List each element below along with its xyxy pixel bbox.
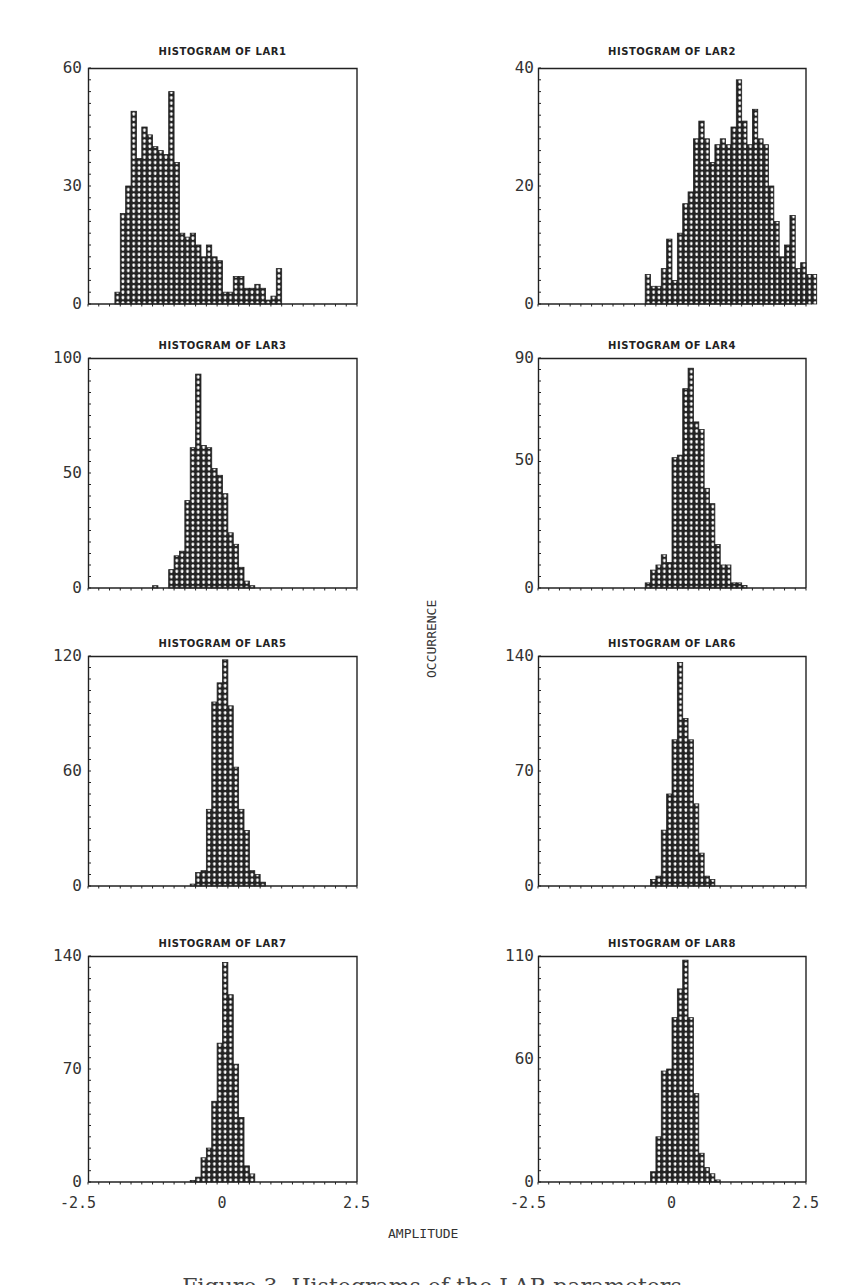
histogram-bar <box>249 288 254 304</box>
histogram-panel-2: HISTOGRAM OF LAR240200 <box>480 60 810 344</box>
histogram-bar <box>190 233 195 304</box>
histogram-plot <box>88 358 359 594</box>
histogram-bar <box>693 422 698 588</box>
y-tick-label: 0 <box>42 1172 82 1191</box>
histogram-bar <box>785 245 790 304</box>
histogram-plot <box>538 656 808 892</box>
y-tick-label: 0 <box>494 876 534 895</box>
y-tick-label: 110 <box>494 946 534 965</box>
histogram-plot <box>88 656 359 892</box>
histogram-bar <box>115 292 120 304</box>
histogram-panel-7: HISTOGRAM OF LAR7140700-2.502.5 <box>40 930 370 1222</box>
histogram-bar <box>142 127 147 304</box>
histogram-plot <box>538 68 808 310</box>
chart-title: HISTOGRAM OF LAR4 <box>538 340 806 351</box>
histogram-bar <box>179 233 184 304</box>
histogram-bar <box>720 565 725 588</box>
y-tick-label: 120 <box>42 646 82 665</box>
figure-caption: Figure 3. Histograms of the LAR paramete… <box>0 1276 864 1285</box>
histogram-bar <box>244 581 249 588</box>
histogram-bar <box>196 873 201 886</box>
histogram-bar <box>688 368 693 588</box>
histogram-bar <box>693 804 698 886</box>
histogram-bar <box>260 288 265 304</box>
histogram-bar <box>228 995 233 1182</box>
histogram-bar <box>249 871 254 886</box>
chart-title: HISTOGRAM OF LAR1 <box>88 46 357 57</box>
histogram-bar <box>752 109 757 304</box>
histogram-bar <box>661 269 666 304</box>
y-tick-label: 60 <box>42 58 82 77</box>
histogram-panel-8: HISTOGRAM OF LAR8110600-2.502.5 <box>480 930 810 1222</box>
histogram-bar <box>163 155 168 304</box>
histogram-bar <box>158 151 163 304</box>
histogram-bar <box>656 565 661 588</box>
histogram-bar <box>223 962 228 1182</box>
histogram-bar <box>206 245 211 304</box>
histogram-bar <box>244 1166 249 1182</box>
histogram-bar <box>736 583 741 588</box>
y-tick-label: 90 <box>494 348 534 367</box>
histogram-bar <box>667 794 672 886</box>
histogram-bar <box>656 876 661 886</box>
histogram-bar <box>179 551 184 588</box>
y-tick-label: 20 <box>494 176 534 195</box>
chart-title: HISTOGRAM OF LAR8 <box>538 938 806 949</box>
histogram-bar <box>651 1172 656 1182</box>
histogram-bar <box>699 430 704 588</box>
histogram-bar <box>276 269 281 304</box>
histogram-bar <box>244 288 249 304</box>
histogram-bar <box>206 809 211 886</box>
histogram-bar <box>699 121 704 304</box>
histogram-bar <box>174 162 179 304</box>
y-tick-label: 40 <box>494 58 534 77</box>
histogram-bar <box>683 389 688 588</box>
histogram-bar <box>174 556 179 588</box>
histogram-bar <box>201 257 206 304</box>
histogram-bar <box>196 245 201 304</box>
y-tick-label: 70 <box>42 1059 82 1078</box>
histogram-bar <box>667 1069 672 1182</box>
histogram-bar <box>710 504 715 588</box>
histogram-bar <box>196 374 201 588</box>
histogram-bar <box>710 162 715 304</box>
histogram-bar <box>774 221 779 304</box>
chart-title: HISTOGRAM OF LAR2 <box>538 46 806 57</box>
histogram-bar <box>239 276 244 304</box>
histogram-bar <box>217 683 222 886</box>
histogram-bar <box>656 1137 661 1182</box>
histogram-bar <box>201 445 206 588</box>
histogram-bar <box>126 186 131 304</box>
x-tick-label: 0 <box>218 1194 227 1212</box>
histogram-bar <box>677 663 682 886</box>
histogram-bar <box>667 239 672 304</box>
x-tick-label: 2.5 <box>792 1194 819 1212</box>
histogram-bar <box>239 567 244 588</box>
x-tick-label: -2.5 <box>510 1194 546 1212</box>
histogram-bar <box>731 583 736 588</box>
histogram-bar <box>255 875 260 887</box>
chart-title: HISTOGRAM OF LAR5 <box>88 638 357 649</box>
histogram-bar <box>806 275 811 305</box>
histogram-bar <box>736 80 741 304</box>
y-tick-label: 0 <box>494 1172 534 1191</box>
histogram-bar <box>169 570 174 588</box>
histogram-plot <box>538 358 808 594</box>
histogram-bar <box>683 718 688 886</box>
histogram-bar <box>699 853 704 886</box>
chart-title: HISTOGRAM OF LAR3 <box>88 340 357 351</box>
histogram-bar <box>661 555 666 588</box>
histogram-bar <box>228 706 233 886</box>
histogram-bar <box>212 257 217 304</box>
histogram-bar <box>201 871 206 886</box>
histogram-panel-3: HISTOGRAM OF LAR3100500 <box>40 350 370 628</box>
histogram-bar <box>688 1018 693 1182</box>
histogram-bar <box>720 139 725 304</box>
histogram-bar <box>217 475 222 588</box>
histogram-plot <box>538 956 808 1188</box>
x-axis-label: AMPLITUDE <box>388 1226 458 1241</box>
histogram-bar <box>212 1101 217 1182</box>
y-tick-label: 0 <box>42 876 82 895</box>
histogram-bar <box>704 488 709 588</box>
y-tick-label: 0 <box>42 294 82 313</box>
